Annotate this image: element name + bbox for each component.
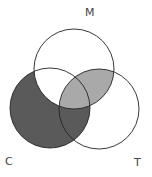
- venn-diagram: M C T: [0, 0, 152, 177]
- label-t: T: [133, 156, 141, 169]
- label-m: M: [85, 6, 95, 19]
- label-c: C: [5, 155, 13, 168]
